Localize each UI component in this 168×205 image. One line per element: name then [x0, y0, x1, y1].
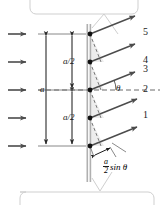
ray-number-3: 3: [143, 64, 148, 74]
dimension-label-a: a: [40, 85, 45, 94]
path-difference-label: a 2 sin θ: [103, 158, 127, 176]
ray-number-1: 1: [143, 110, 148, 120]
diffraction-figure: 5 4 3 2 1 a a/2 a/2 θ a 2 sin θ: [0, 0, 168, 205]
callout-box-top: [30, 0, 138, 14]
slit-barrier: [87, 24, 92, 182]
theta-label: θ: [116, 84, 120, 93]
callout-leader-top-left: [92, 14, 104, 28]
ray-number-2: 2: [143, 84, 148, 94]
huygens-source-point: [88, 116, 93, 121]
callout-leader-bottom-left: [92, 178, 100, 191]
ray-number-5: 5: [143, 27, 148, 37]
path-difference-sin-theta: sin θ: [110, 162, 127, 172]
incident-wave-arrows: [8, 34, 26, 146]
path-difference-fraction: a 2: [103, 158, 109, 176]
huygens-source-point: [88, 32, 93, 37]
dimension-label-a-half-lower: a/2: [63, 113, 75, 122]
dimension-label-a-half-upper: a/2: [63, 57, 75, 66]
ray-5: [90, 16, 135, 34]
huygens-source-point: [88, 60, 93, 65]
huygens-source-point: [88, 88, 93, 93]
huygens-source-point: [88, 144, 93, 149]
path-difference-denominator: 2: [103, 167, 109, 175]
callout-box-bottom: [20, 192, 154, 205]
